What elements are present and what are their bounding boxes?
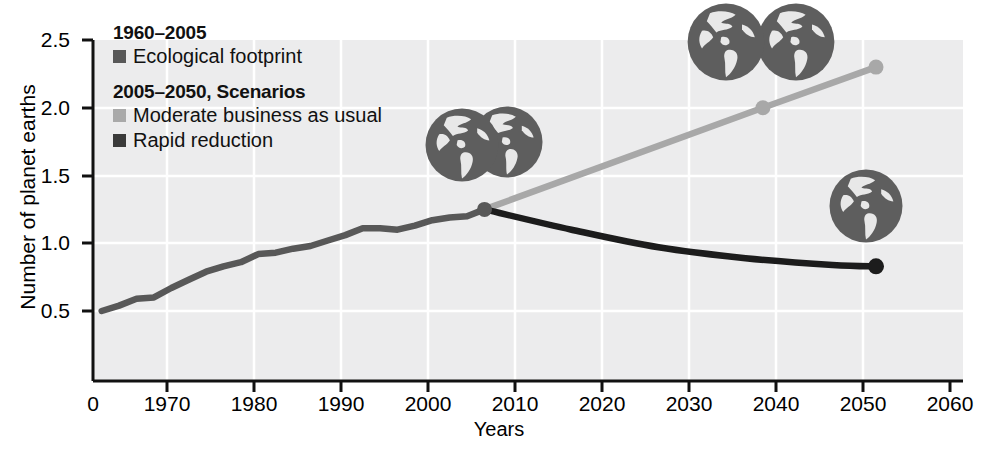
x-tick-label-0: 0 xyxy=(53,392,133,416)
legend-item-ecological-footprint: Ecological footprint xyxy=(113,45,382,68)
legend-label-moderate-bau: Moderate business as usual xyxy=(133,104,382,127)
legend-group1-title: 1960–2005 xyxy=(113,22,382,44)
legend-swatch-icon-moderate-bau xyxy=(113,109,126,122)
chart-container: 2.5 2.0 1.5 1.0 0.5 0 1970 1980 1990 200… xyxy=(0,0,998,454)
chart-legend: 1960–2005 Ecological footprint 2005–2050… xyxy=(113,22,382,154)
x-tick-label-1970: 1970 xyxy=(127,392,207,416)
bau-marker-2040 xyxy=(755,100,770,115)
x-tick-label-2010: 2010 xyxy=(475,392,555,416)
rapid-marker-2050 xyxy=(868,258,884,274)
globe-annotation-2050-rapid xyxy=(830,170,903,243)
x-tick-label-1990: 1990 xyxy=(301,392,381,416)
legend-group2-title: 2005–2050, Scenarios xyxy=(113,81,382,103)
globes-annotation-2005 xyxy=(426,106,543,181)
branch-point-marker xyxy=(477,202,492,217)
legend-item-rapid-reduction: Rapid reduction xyxy=(113,129,382,152)
legend-swatch-icon-rapid-reduction xyxy=(113,134,126,147)
bau-marker-2050 xyxy=(869,60,884,75)
x-tick-label-2000: 2000 xyxy=(388,392,468,416)
x-tick-label-2060: 2060 xyxy=(910,392,990,416)
legend-swatch-icon-ecological-footprint xyxy=(113,50,126,63)
x-tick-label-2050: 2050 xyxy=(823,392,903,416)
legend-label-ecological-footprint: Ecological footprint xyxy=(133,45,302,68)
x-axis-title: Years xyxy=(0,418,998,441)
x-axis-ticks xyxy=(167,381,950,392)
x-tick-label-2030: 2030 xyxy=(649,392,729,416)
legend-label-rapid-reduction: Rapid reduction xyxy=(133,129,273,152)
x-tick-label-1980: 1980 xyxy=(214,392,294,416)
x-tick-label-2020: 2020 xyxy=(562,392,642,416)
legend-spacer xyxy=(113,70,382,81)
y-axis-ticks xyxy=(82,40,93,311)
y-axis-title: Number of planet earths xyxy=(16,27,40,367)
x-tick-label-2040: 2040 xyxy=(736,392,816,416)
legend-item-moderate-bau: Moderate business as usual xyxy=(113,104,382,127)
